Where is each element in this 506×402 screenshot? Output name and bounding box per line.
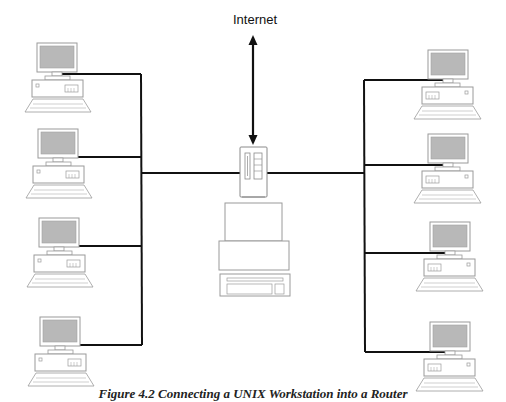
left-client-2 (26, 129, 92, 198)
router-icon (240, 147, 267, 197)
figure-caption: Figure 4.2 Connecting a UNIX Workstation… (0, 386, 506, 402)
internet-label: Internet (225, 12, 285, 27)
right-client-2 (414, 134, 481, 203)
internet-link-arrow (249, 35, 258, 145)
right-client-1 (414, 50, 481, 119)
right-bus-cable (364, 80, 448, 352)
left-bus-cable (61, 74, 142, 345)
workstation-icon (219, 203, 290, 296)
left-client-4 (28, 317, 94, 386)
left-client-3 (27, 218, 93, 287)
right-client-3 (416, 222, 483, 291)
right-client-4 (416, 322, 483, 391)
left-client-1 (25, 43, 91, 112)
